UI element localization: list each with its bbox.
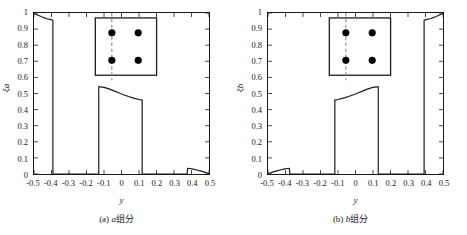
- y-tick-label: 0.3: [0, 122, 28, 130]
- y-tick-label: 0.5: [234, 90, 262, 98]
- y-tick-label: 1: [0, 8, 28, 16]
- inset-section-outline: [329, 18, 390, 75]
- inset-diagram: [95, 13, 156, 80]
- x-axis-label-a: y: [33, 195, 210, 205]
- plot-svg-a: [34, 13, 209, 174]
- inset-section-outline: [95, 18, 156, 75]
- y-tick-label: 1: [234, 8, 262, 16]
- y-tick-label: 0: [234, 171, 262, 179]
- caption-a-prefix: (a): [99, 214, 111, 224]
- plot-content: [268, 13, 443, 174]
- y-tick-label: 0.4: [0, 106, 28, 114]
- plot-area-b: [267, 12, 444, 175]
- inset-inclusion-dot: [369, 29, 376, 36]
- plot-area-a: [33, 12, 210, 175]
- caption-b: (b) b组分: [234, 212, 467, 225]
- y-tick-label: 0.2: [234, 138, 262, 146]
- inset-diagram: [329, 13, 390, 80]
- y-tick-label: 0.8: [234, 41, 262, 49]
- inset-inclusion-dot: [369, 57, 376, 64]
- y-tick-label: 0.7: [0, 57, 28, 65]
- plot-svg-b: [268, 13, 443, 174]
- x-tick-label: 0.5: [197, 179, 223, 188]
- y-tick-label: 0: [0, 171, 28, 179]
- panel-b: ξb 00.10.20.30.40.50.60.70.80.91 -0.5-0.…: [234, 0, 467, 235]
- y-tick-label: 0.7: [234, 57, 262, 65]
- figure-container: ξa 00.10.20.30.40.50.60.70.80.91 -0.5-0.…: [0, 0, 467, 235]
- y-tick-label: 0.9: [0, 24, 28, 32]
- y-tick-label: 0.5: [0, 90, 28, 98]
- caption-b-suffix: 组分: [350, 214, 368, 224]
- caption-a: (a) a组分: [0, 212, 233, 225]
- plot-content: [34, 13, 209, 174]
- inset-inclusion-dot: [108, 57, 115, 64]
- y-tick-label: 0.3: [234, 122, 262, 130]
- inset-inclusion-dot: [342, 29, 349, 36]
- y-tick-label: 0.6: [0, 73, 28, 81]
- x-tick-label: 0.5: [431, 179, 457, 188]
- inset-inclusion-dot: [135, 57, 142, 64]
- y-tick-label: 0.6: [234, 73, 262, 81]
- y-tick-label: 0.2: [0, 138, 28, 146]
- caption-b-prefix: (b): [333, 214, 346, 224]
- inset-inclusion-dot: [135, 29, 142, 36]
- y-tick-label: 0.4: [234, 106, 262, 114]
- y-tick-label: 0.1: [234, 155, 262, 163]
- inset-inclusion-dot: [342, 57, 349, 64]
- y-tick-label: 0.9: [234, 24, 262, 32]
- x-axis-label-b: y: [267, 195, 444, 205]
- panel-a: ξa 00.10.20.30.40.50.60.70.80.91 -0.5-0.…: [0, 0, 233, 235]
- inset-inclusion-dot: [108, 29, 115, 36]
- y-tick-label: 0.8: [0, 41, 28, 49]
- y-tick-label: 0.1: [0, 155, 28, 163]
- caption-a-suffix: 组分: [116, 214, 134, 224]
